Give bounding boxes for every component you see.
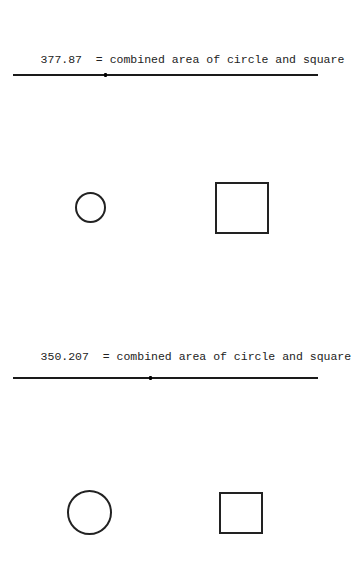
square-shape-2: [219, 492, 263, 534]
circle-shape-2: [67, 490, 112, 535]
area-value-1: 377.87: [41, 53, 82, 66]
area-slider-1[interactable]: [13, 74, 318, 76]
square-shape-1: [215, 182, 269, 234]
slider-thumb-2[interactable]: [149, 376, 152, 380]
circle-shape-1: [75, 192, 106, 223]
area-readout-2: 350.207 = combined area of circle and sq…: [13, 337, 351, 376]
area-description-1: = combined area of circle and square: [96, 53, 344, 66]
slider-thumb-1[interactable]: [104, 73, 107, 77]
area-description-2: = combined area of circle and square: [103, 350, 351, 363]
area-slider-2[interactable]: [13, 377, 318, 379]
area-value-2: 350.207: [41, 350, 89, 363]
